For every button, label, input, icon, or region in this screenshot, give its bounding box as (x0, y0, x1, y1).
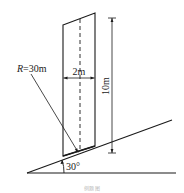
figure-caption: 例题 图 (84, 185, 101, 192)
diagram-canvas: 2m 10m R=30m 30° 例题 图 (0, 0, 184, 193)
radius-leader-line (31, 74, 78, 152)
height-label: 10m (100, 77, 111, 95)
angle-label: 30° (66, 161, 80, 172)
width-arrow-right-icon (91, 77, 95, 80)
width-arrow-left-icon (64, 77, 68, 80)
radius-label: R=30m (16, 63, 47, 74)
width-label: 2m (73, 66, 86, 77)
height-arrow-bottom-icon (111, 149, 114, 153)
slope-line (27, 120, 172, 173)
height-arrow-top-icon (111, 18, 114, 22)
